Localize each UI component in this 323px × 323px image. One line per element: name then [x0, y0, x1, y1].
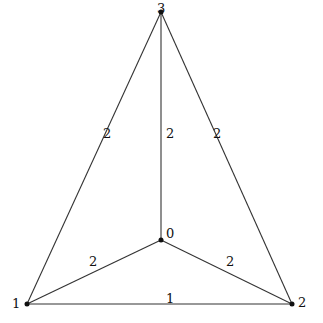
edge-weight-0-2: 2	[226, 254, 234, 269]
edge-weight-0-1: 2	[89, 254, 97, 269]
node-label-1: 1	[12, 296, 20, 311]
edge-weight-1-2: 1	[166, 291, 174, 306]
node-0	[159, 238, 164, 243]
edge-0-2	[161, 240, 292, 304]
weighted-graph-diagram: 2 2 2 2 2 1 0 1 2 3	[0, 0, 323, 323]
node-1	[25, 302, 30, 307]
node-label-2: 2	[298, 295, 306, 310]
edge-0-1	[27, 240, 161, 304]
edge-weight-1-3: 2	[103, 126, 111, 141]
node-2	[290, 302, 295, 307]
edge-weight-0-3: 2	[166, 126, 174, 141]
node-label-3: 3	[157, 1, 165, 16]
edge-weight-2-3: 2	[213, 126, 221, 141]
node-label-0: 0	[166, 226, 174, 241]
